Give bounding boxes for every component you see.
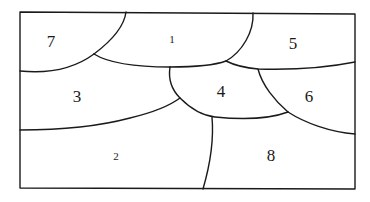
boundary-5-6: [226, 61, 355, 69]
boundary-2-8: [203, 117, 213, 189]
region-label-3: 3: [73, 88, 82, 105]
region-label-5: 5: [289, 35, 298, 52]
boundary-7-3: [20, 54, 94, 72]
map-diagram: 7 1 5 3 4 6 2 8: [0, 0, 370, 202]
region-boundaries: [0, 0, 370, 202]
region-label-2: 2: [113, 151, 119, 162]
boundary-7-1: [94, 12, 126, 54]
region-label-4: 4: [217, 83, 226, 100]
boundary-1-5: [226, 13, 253, 61]
boundary-1-4: [170, 61, 226, 67]
region-label-7: 7: [47, 33, 56, 50]
boundary-6-8: [288, 112, 355, 134]
boundary-3-2: [20, 98, 180, 130]
region-label-1: 1: [169, 34, 175, 45]
boundary-4-6: [258, 69, 288, 112]
region-label-6: 6: [305, 88, 314, 105]
region-label-8: 8: [267, 147, 276, 164]
boundary-1-3: [94, 54, 170, 67]
